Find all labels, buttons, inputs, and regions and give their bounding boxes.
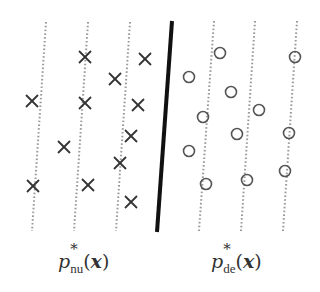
label-argument: x (91, 250, 102, 272)
cross-marker-icon (125, 196, 137, 208)
circle-marker-icon (184, 146, 195, 157)
numerator-samples (26, 51, 151, 208)
cross-marker-icon (109, 73, 121, 85)
dotted-line-6 (283, 21, 297, 231)
dotted-line-1 (32, 22, 46, 231)
label-base: p (211, 250, 223, 272)
label-superscript: * (70, 240, 78, 258)
label-argument: x (243, 250, 254, 272)
circle-marker-icon (242, 175, 253, 186)
label-open-paren: ( (235, 250, 242, 272)
separator-line (157, 21, 172, 232)
circle-marker-icon (280, 166, 291, 177)
cross-marker-icon (139, 53, 151, 65)
cross-marker-icon (79, 97, 91, 109)
circle-marker-icon (232, 129, 243, 140)
label-superscript: * (223, 240, 231, 258)
separator-line-stroke (157, 21, 172, 232)
cross-marker-icon (26, 95, 38, 107)
cross-marker-icon (27, 180, 39, 192)
circle-marker-icon (284, 128, 295, 139)
label-close-paren: ) (102, 250, 109, 272)
dotted-line-5 (241, 21, 255, 231)
label-open-paren: ( (83, 250, 90, 272)
numerator-density-label: p*nu(x) (58, 250, 109, 272)
cross-marker-icon (132, 99, 144, 111)
label-subscript: de (223, 261, 235, 277)
circle-marker-icon (215, 48, 226, 59)
label-base: p (58, 250, 70, 272)
density-ratio-diagram (0, 0, 320, 292)
circle-marker-icon (254, 105, 265, 116)
circle-marker-icon (226, 87, 237, 98)
label-subscript: nu (70, 261, 83, 277)
label-close-paren: ) (254, 250, 261, 272)
cross-marker-icon (58, 141, 70, 153)
denominator-density-label: p*de(x) (211, 250, 262, 272)
cross-marker-icon (125, 130, 137, 142)
circle-marker-icon (184, 72, 195, 83)
denominator-samples (184, 48, 301, 190)
dotted-line-4 (199, 21, 214, 231)
circle-marker-icon (290, 52, 301, 63)
cross-marker-icon (82, 179, 94, 191)
